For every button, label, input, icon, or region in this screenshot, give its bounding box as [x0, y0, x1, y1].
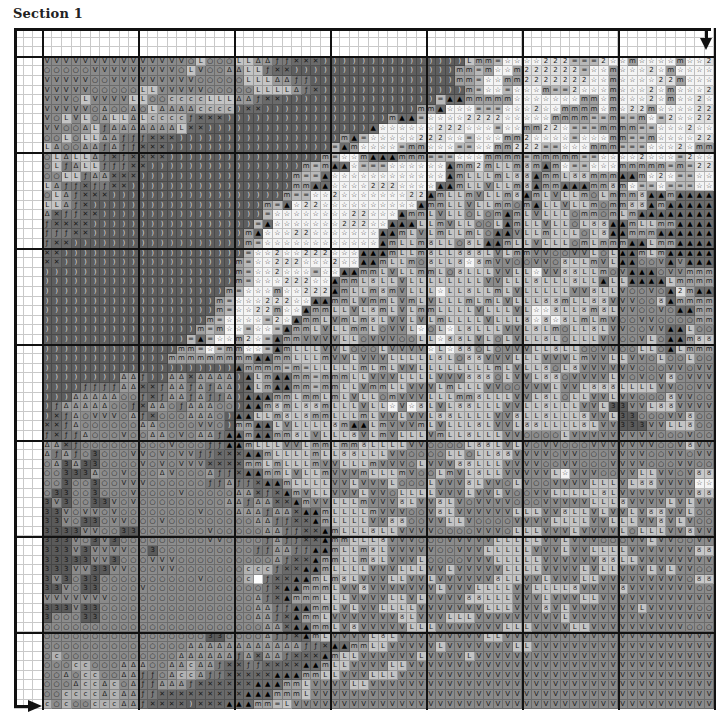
paren-symbol-cell: )	[62, 383, 72, 393]
v-symbol-cell: V	[120, 76, 130, 86]
v-symbol-cell: V	[657, 671, 667, 681]
equals-symbol-cell: =	[196, 345, 206, 355]
circle-symbol-cell: ○	[676, 373, 686, 383]
f-symbol-cell: ƒ	[263, 594, 273, 604]
star-symbol-cell: ☆	[407, 402, 417, 412]
circle-symbol-cell: ○	[62, 124, 72, 134]
equals-symbol-cell: =	[551, 86, 561, 96]
m-symbol-cell: m	[340, 441, 350, 451]
l-symbol-cell: L	[215, 95, 225, 105]
cross-symbol-cell: ✕	[148, 412, 158, 422]
circle-symbol-cell: ○	[120, 393, 130, 403]
l-symbol-cell: L	[359, 536, 369, 546]
v-symbol-cell: V	[465, 680, 475, 690]
v-symbol-cell: V	[388, 700, 398, 710]
circle-symbol-cell: ○	[695, 412, 705, 422]
v-symbol-cell: V	[580, 680, 590, 690]
star-symbol-cell: ☆	[494, 66, 504, 76]
l-symbol-cell: L	[532, 402, 542, 412]
cross-symbol-cell: ✕	[273, 489, 283, 499]
two-symbol-cell: 2	[407, 191, 417, 201]
star-symbol-cell: ☆	[244, 306, 254, 316]
two-symbol-cell: 2	[263, 306, 273, 316]
empty-cell	[436, 38, 446, 48]
circle-symbol-cell: ○	[177, 517, 187, 527]
f-symbol-cell: ƒ	[302, 546, 312, 556]
l-symbol-cell: L	[311, 421, 321, 431]
l-symbol-cell: L	[244, 57, 254, 67]
cross-symbol-cell: ✕	[244, 105, 254, 115]
circle-symbol-cell: ○	[168, 594, 178, 604]
v-symbol-cell: V	[359, 671, 369, 681]
paren-symbol-cell: )	[206, 153, 216, 163]
paren-symbol-cell: )	[62, 249, 72, 259]
curl-symbol-cell: ठ	[599, 229, 609, 239]
empty-cell	[100, 38, 110, 48]
star-symbol-cell: ☆	[532, 114, 542, 124]
v-symbol-cell: V	[686, 556, 696, 566]
v-symbol-cell: V	[398, 652, 408, 662]
v-symbol-cell: V	[657, 556, 667, 566]
l-symbol-cell: L	[350, 517, 360, 527]
star-symbol-cell: ☆	[388, 162, 398, 172]
circle-symbol-cell: ○	[43, 460, 53, 470]
star-symbol-cell: ☆	[407, 162, 417, 172]
curl-symbol-cell: ठ	[455, 345, 465, 355]
paren-symbol-cell: )	[168, 277, 178, 287]
circle-symbol-cell: ○	[158, 661, 168, 671]
paren-symbol-cell: )	[177, 134, 187, 144]
paren-symbol-cell: )	[62, 297, 72, 307]
paren-symbol-cell: )	[177, 182, 187, 192]
star-symbol-cell: ☆	[263, 277, 273, 287]
l-symbol-cell: L	[446, 450, 456, 460]
circle-symbol-cell: ○	[100, 661, 110, 671]
v-symbol-cell: V	[407, 556, 417, 566]
v-symbol-cell: V	[570, 460, 580, 470]
v-symbol-cell: V	[628, 546, 638, 556]
l-symbol-cell: L	[580, 383, 590, 393]
l-symbol-cell: L	[120, 114, 130, 124]
l-symbol-cell: L	[503, 565, 513, 575]
paren-symbol-cell: )	[379, 105, 389, 115]
v-symbol-cell: V	[561, 690, 571, 700]
l-symbol-cell: L	[283, 469, 293, 479]
paren-symbol-cell: )	[139, 354, 149, 364]
circle-symbol-cell: ○	[436, 450, 446, 460]
star-symbol-cell: ☆	[542, 95, 552, 105]
v-symbol-cell: V	[340, 700, 350, 710]
circle-symbol-cell: ○	[158, 594, 168, 604]
l-symbol-cell: L	[580, 277, 590, 287]
paren-symbol-cell: )	[139, 249, 149, 259]
circle-symbol-cell: ○	[695, 325, 705, 335]
equals-symbol-cell: =	[686, 162, 696, 172]
equals-symbol-cell: =	[561, 86, 571, 96]
triangle-outline-symbol-cell: Δ	[177, 373, 187, 383]
star-symbol-cell: ☆	[532, 134, 542, 144]
triangle-outline-symbol-cell: Δ	[206, 373, 216, 383]
paren-symbol-cell: )	[187, 249, 197, 259]
l-symbol-cell: L	[455, 613, 465, 623]
l-symbol-cell: L	[398, 268, 408, 278]
m-symbol-cell: m	[331, 556, 341, 566]
l-symbol-cell: L	[590, 268, 600, 278]
v-symbol-cell: V	[359, 700, 369, 710]
curl-symbol-cell: ठ	[465, 345, 475, 355]
f-symbol-cell: ƒ	[254, 95, 264, 105]
m-symbol-cell: m	[590, 210, 600, 220]
triangle-outline-symbol-cell: Δ	[244, 489, 254, 499]
l-symbol-cell: L	[666, 565, 676, 575]
paren-symbol-cell: )	[148, 325, 158, 335]
v-symbol-cell: V	[503, 613, 513, 623]
v-symbol-cell: V	[599, 632, 609, 642]
v-symbol-cell: V	[484, 652, 494, 662]
filled-triangle-symbol-cell: ▲	[503, 210, 513, 220]
l-symbol-cell: L	[570, 306, 580, 316]
filled-triangle-symbol-cell: ▲	[350, 268, 360, 278]
triangle-outline-symbol-cell: Δ	[43, 441, 53, 451]
circle-symbol-cell: ○	[100, 575, 110, 585]
circle-symbol-cell: ○	[72, 700, 82, 710]
filled-triangle-symbol-cell: ▲	[379, 153, 389, 163]
two-symbol-cell: 2	[350, 220, 360, 230]
v-symbol-cell: V	[455, 584, 465, 594]
f-symbol-cell: ƒ	[283, 536, 293, 546]
